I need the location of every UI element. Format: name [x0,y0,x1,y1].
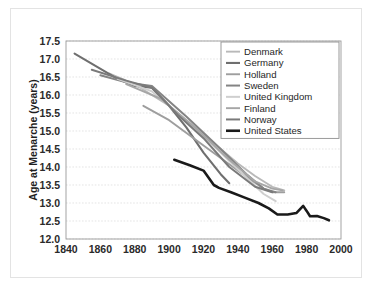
legend-label: Holland [244,69,277,80]
legend-label: United Kingdom [244,91,312,102]
figure-container: 12.012.513.013.514.014.515.015.516.016.5… [0,0,372,286]
y-tick-label: 17.5 [40,35,61,47]
legend-label: Sweden [244,80,279,91]
legend-label: Norway [244,114,277,125]
y-tick-label: 17.0 [40,53,61,65]
y-tick-label: 16.5 [40,71,61,83]
x-tick-label: 1860 [89,243,113,255]
y-tick-label: 12.5 [40,215,61,227]
x-tick-label: 1880 [123,243,147,255]
y-tick-label: 15.0 [40,125,61,137]
y-tick-label: 14.5 [40,143,61,155]
chart-legend: DenmarkGermanyHollandSwedenUnited Kingdo… [221,42,339,138]
y-axis-title: Age at Menarche (years) [27,79,39,200]
legend-label: Finland [244,103,275,114]
y-tick-label: 13.5 [40,179,61,191]
series-line [174,160,329,220]
line-chart: 12.012.513.013.514.014.515.015.516.016.5… [0,0,372,286]
x-tick-label: 1900 [157,243,181,255]
legend-label: United States [244,125,302,136]
x-tick-label: 1980 [295,243,319,255]
y-tick-label: 15.5 [40,107,61,119]
legend-label: Germany [244,57,284,68]
y-tick-label: 14.0 [40,161,61,173]
y-tick-label: 13.0 [40,197,61,209]
x-tick-label: 1960 [261,243,285,255]
x-tick-label: 1840 [54,243,78,255]
x-tick-label: 1920 [192,243,216,255]
legend-label: Denmark [244,46,283,57]
x-tick-label: 2000 [329,243,353,255]
x-axis-tick-labels: 184018601880190019201940196019802000 [54,243,353,255]
x-tick-label: 1940 [226,243,250,255]
y-axis-tick-labels: 12.012.513.013.514.014.515.015.516.016.5… [40,35,61,245]
y-tick-label: 16.0 [40,89,61,101]
series-line [75,54,230,184]
